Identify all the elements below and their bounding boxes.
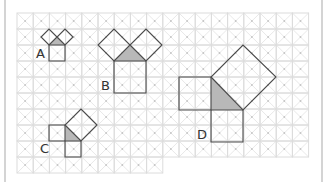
figure-label-d: D — [197, 127, 207, 142]
grid — [17, 13, 309, 173]
figure-label-a: A — [36, 46, 45, 61]
figure-label-c: C — [40, 141, 49, 156]
shaded-right-triangle — [49, 37, 65, 45]
pythagoras-diagram: A B C D — [0, 0, 330, 182]
figure-c: C — [40, 109, 97, 157]
shaded-right-triangle — [114, 45, 146, 61]
figure-label-b: B — [101, 78, 110, 93]
